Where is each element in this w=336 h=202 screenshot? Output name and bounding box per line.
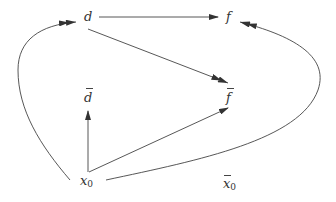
overline-mark — [224, 175, 231, 176]
node-f-text: f — [226, 9, 231, 24]
node-x0-bar-subscript: 0 — [230, 182, 236, 192]
diagram-canvas — [0, 0, 336, 202]
node-d-bar: d — [84, 91, 92, 104]
node-f-bar-text: f — [226, 90, 231, 105]
overline-mark — [86, 88, 93, 89]
node-d-bar-text: d — [84, 90, 92, 105]
node-x0-subscript: 0 — [87, 179, 93, 189]
node-x0-bar: x0 — [223, 177, 236, 192]
edge-d-to-fbar — [88, 29, 228, 83]
overline-mark — [227, 88, 234, 89]
edge-x0-to-d-curved — [18, 22, 76, 180]
node-f: f — [226, 10, 231, 23]
edge-x0-to-f-curved — [106, 22, 320, 180]
edge-x0-to-fbar — [89, 108, 228, 172]
node-x0: x0 — [80, 174, 93, 189]
node-f-bar: f — [226, 91, 231, 104]
node-d: d — [84, 10, 92, 23]
node-d-text: d — [84, 9, 92, 24]
